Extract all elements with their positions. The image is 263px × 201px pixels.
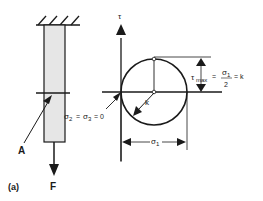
sigma1-subscript: 1 [156, 141, 160, 147]
tau-max-symbol: τ [191, 73, 195, 82]
fraction-denominator: 2 [224, 81, 228, 88]
fraction-numerator-sub: 1 [227, 72, 231, 78]
tau-axis-label: τ [118, 12, 122, 21]
sigma3-subscript: 3 [88, 116, 92, 122]
mohr-circle-diagram [102, 24, 222, 162]
tau-max-arrow-up-icon [196, 58, 206, 66]
bar-body [44, 25, 65, 142]
sigma2-equals: = [76, 113, 80, 120]
force-label: F [50, 181, 56, 192]
tau-max-subscript: max [196, 77, 207, 83]
mohr-circle-figure: A F (a) τ τ max = σ 1 2 = k k σ 2 = σ 3 … [0, 0, 263, 201]
origin-arrow-icon [113, 92, 121, 101]
sigma1-arrow-right-icon [177, 138, 186, 146]
tau-max-equals: = [212, 73, 216, 80]
sigma2-subscript: 2 [69, 116, 73, 122]
top-point [152, 57, 156, 61]
tau-axis-arrow-icon [116, 24, 126, 35]
sigma1-arrow-left-icon [122, 138, 131, 146]
tau-max-arrow-down-icon [196, 84, 206, 92]
force-arrow-icon [49, 164, 59, 176]
origin-leader [106, 98, 117, 109]
wall-hatching-icon [38, 16, 79, 25]
point-a-label: A [18, 145, 25, 156]
tension-bar-diagram [24, 16, 80, 176]
sigma3-equals-zero: = 0 [94, 113, 104, 120]
equals-k: = k [234, 73, 244, 80]
radius-k-label: k [145, 98, 150, 107]
panel-label: (a) [8, 182, 19, 192]
